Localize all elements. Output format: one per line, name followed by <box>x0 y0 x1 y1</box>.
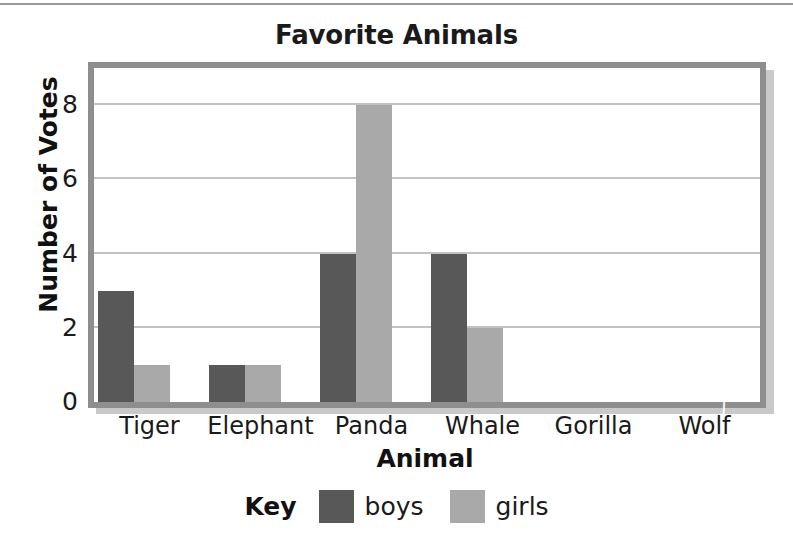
bar-tiger-girls <box>134 365 170 402</box>
bar-panda-girls <box>356 105 392 402</box>
y-tick-label-4: 4 <box>38 241 78 266</box>
legend-label-girls: girls <box>496 492 549 521</box>
bar-elephant-girls <box>245 365 281 402</box>
bars-layer <box>94 68 760 402</box>
plot-area <box>88 62 766 408</box>
bar-whale-girls <box>467 328 503 402</box>
chart-page: Favorite Animals Number of Votes 02468 ∫… <box>0 0 793 540</box>
legend-item-boys: boys <box>319 490 424 523</box>
legend-items: boysgirls <box>319 490 549 523</box>
plot-inner <box>94 68 760 402</box>
legend-label-boys: boys <box>365 492 424 521</box>
chart-title: Favorite Animals <box>0 20 793 50</box>
y-tick-label-6: 6 <box>38 166 78 191</box>
x-tick-label-wolf: Wolf <box>635 414 775 438</box>
y-tick-label-0: 0 <box>38 389 78 414</box>
bar-tiger-boys <box>98 291 134 402</box>
legend-item-girls: girls <box>450 490 549 523</box>
legend-swatch-boys <box>319 490 354 523</box>
bar-whale-boys <box>431 254 467 402</box>
y-tick-label-2: 2 <box>38 315 78 340</box>
legend-key-title: Key <box>244 492 296 521</box>
bar-elephant-boys <box>209 365 245 402</box>
y-tick-label-8: 8 <box>38 92 78 117</box>
bar-panda-boys <box>320 254 356 402</box>
chart-legend: Key boysgirls <box>0 490 793 523</box>
x-axis-title: Animal <box>325 444 525 473</box>
page-top-rule <box>0 3 793 5</box>
legend-swatch-girls <box>450 490 485 523</box>
